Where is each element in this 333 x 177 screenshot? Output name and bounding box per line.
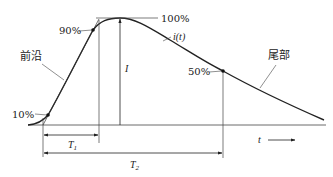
- label-time: t: [258, 135, 261, 145]
- label-peak-current: I: [125, 64, 128, 74]
- label-100pct: 100%: [161, 14, 190, 24]
- label-t2: T2: [130, 160, 139, 172]
- waveform-diagram: [0, 0, 333, 177]
- label-leading-edge: 前沿: [20, 51, 42, 62]
- label-tail: 尾部: [268, 50, 290, 61]
- label-10pct: 10%: [12, 110, 34, 120]
- label-t1: T1: [68, 140, 77, 152]
- leader-50pct: [209, 71, 222, 72]
- leader-front: [42, 64, 64, 80]
- leader-tail: [260, 65, 276, 88]
- label-curve: i(t): [173, 32, 185, 42]
- label-90pct: 90%: [59, 26, 81, 36]
- t2-subscript: 2: [136, 164, 140, 172]
- leader-10pct: [35, 114, 47, 115]
- t1-subscript: 1: [74, 144, 78, 152]
- label-50pct: 50%: [188, 67, 210, 77]
